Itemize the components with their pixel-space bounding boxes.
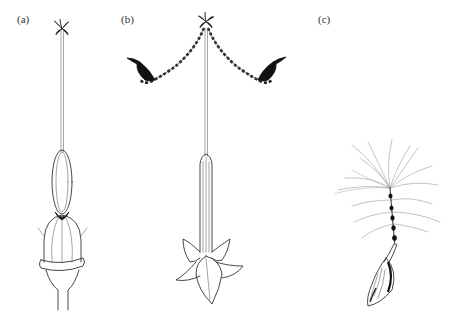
stigma-a-icon [54,19,69,35]
panel-b-drawing [127,12,286,304]
stigma-b-icon [198,12,214,28]
pappus-hairs [334,140,440,238]
panel-a-drawing [38,19,87,310]
panel-c-drawing [334,140,440,306]
figure-canvas [0,0,455,323]
stalk-beads [389,194,397,241]
